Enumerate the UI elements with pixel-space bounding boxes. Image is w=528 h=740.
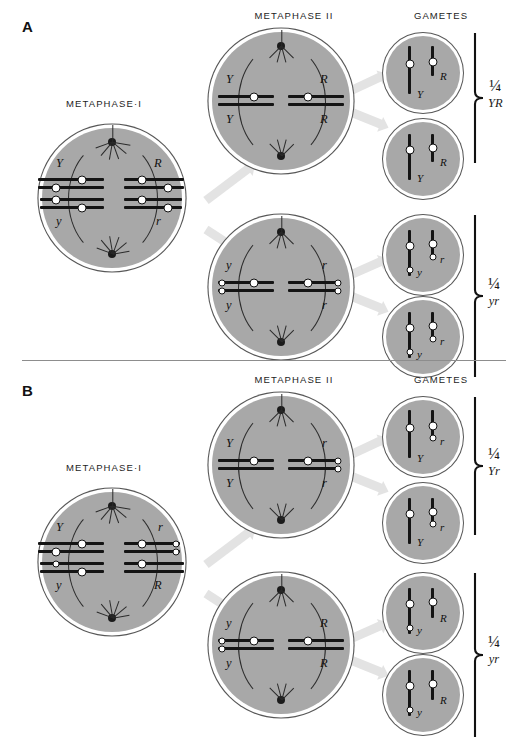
fraction-value-b1: ¼ [488,446,500,462]
allele-gamete-b4-right: R [440,694,447,706]
panel-b: B METAPHASE·I METAPHASE II GAMETES [0,364,528,740]
allele-m1-right-bottom-b: R [154,578,162,593]
allele-m1-left-top-b: Y [56,520,63,535]
allele-gamete-a3-left: y [417,266,422,278]
allele-gamete-b3-right: R [440,612,447,624]
allele-m1-right-bottom-a: r [156,214,161,229]
allele-m2c1-right-top-b: r [322,436,327,451]
fraction-value-a2: ¼ [488,276,500,292]
gamete-cell-b3: R y [386,576,460,650]
genotype-a2: yr [488,295,500,308]
metaphase-2-cell-2-a: y y r r [212,218,350,356]
genotype-b2: yr [488,653,500,666]
gamete-cell-b1: r Y [386,400,460,474]
heading-metaphase-1-a: METAPHASE·I [66,98,142,109]
panel-a: A METAPHASE·I METAPHASE II GAMETES [0,0,528,358]
allele-m2c2-right-bottom-a: r [322,298,327,313]
allele-m2c2-left-top-a: y [226,258,232,273]
arrow-m1-to-m2-top-a [203,164,252,204]
heading-metaphase-1-b: METAPHASE·I [66,462,142,473]
gamete-cell-a2: R Y [386,122,460,196]
allele-m2c2-left-top-b: y [226,616,232,631]
allele-m2c2-right-top-a: r [322,258,327,273]
allele-gamete-b2-right: r [440,521,444,533]
allele-m2c2-left-bottom-b: y [226,656,232,671]
allele-m2c2-left-bottom-a: y [226,298,232,313]
allele-m2c1-left-top-a: Y [226,72,233,87]
arrow-m2-to-gamete-3-a [345,257,383,281]
metaphase-1-cell-b: Y y r R [42,492,182,632]
allele-gamete-a1-left: Y [417,88,423,100]
gamete-cell-b2: r Y [386,486,460,560]
brace-gamete-group-2-b [472,572,485,738]
allele-m2c2-right-top-b: R [320,616,328,631]
allele-m2c1-right-bottom-b: r [322,476,327,491]
metaphase-1-cell-a: Y y R r [42,128,182,268]
heading-gametes-b: GAMETES [414,374,468,385]
arrow-m1-to-m2-top-b [203,528,252,568]
allele-m1-right-top-b: r [158,520,163,535]
allele-m2c1-right-bottom-a: R [320,112,328,127]
panel-letter-b: B [22,382,33,399]
brace-gamete-group-1-a [472,32,485,164]
genotype-a1: YR [488,97,503,110]
fraction-gamete-group-1-a: ¼ YR [488,78,503,110]
allele-gamete-a1-right: R [440,70,447,82]
fraction-gamete-group-2-a: ¼ yr [488,276,500,308]
gamete-cell-a3: r y [386,218,460,292]
fraction-gamete-group-1-b: ¼ Yr [488,446,500,478]
arrow-m2-to-gamete-1-b [345,436,383,460]
gamete-cell-b4: R y [386,658,460,732]
arrow-m2-to-gamete-2-b [345,470,384,493]
heading-metaphase-2-b: METAPHASE II [254,374,333,385]
fraction-value-a1: ¼ [488,78,503,94]
allele-m2c1-left-top-b: Y [226,436,233,451]
fraction-value-b2: ¼ [488,634,500,650]
allele-m1-left-bottom-a: y [56,214,62,229]
metaphase-2-cell-2-b: y y R R [212,576,350,714]
arrow-m2-to-gamete-1-a [345,72,383,96]
allele-gamete-b2-left: Y [417,536,423,548]
allele-m1-left-top-a: Y [56,156,63,171]
genotype-b1: Yr [488,465,500,478]
panel-letter-a: A [22,18,33,35]
gamete-cell-a4: r y [386,300,460,374]
metaphase-2-cell-1-b: Y Y r r [212,396,350,534]
metaphase-2-cell-1-a: Y Y R R [212,32,350,170]
gamete-cell-a1: R Y [386,36,460,110]
allele-gamete-a4-left: y [417,348,422,360]
heading-gametes-a: GAMETES [414,10,468,21]
heading-metaphase-2-a: METAPHASE II [254,10,333,21]
allele-gamete-b3-left: y [417,624,422,636]
allele-m2c2-right-bottom-b: R [320,656,328,671]
panel-divider [22,360,506,361]
allele-gamete-a3-right: r [440,253,444,265]
allele-gamete-b1-right: r [440,435,444,447]
allele-m1-right-top-a: R [154,156,162,171]
brace-gamete-group-1-b [472,396,485,536]
arrow-m2-to-gamete-4-b [345,654,384,677]
arrow-m2-to-gamete-4-a [345,290,384,313]
allele-m2c1-left-bottom-b: Y [226,476,233,491]
allele-m1-left-bottom-b: y [56,578,62,593]
allele-m2c1-right-top-a: R [320,72,328,87]
arrow-m2-to-gamete-3-b [345,621,383,645]
allele-gamete-b1-left: Y [417,452,423,464]
allele-gamete-a4-right: r [440,335,444,347]
allele-gamete-b4-left: y [417,706,422,718]
brace-gamete-group-2-a [472,214,485,378]
allele-gamete-a2-right: R [440,156,447,168]
arrow-m2-to-gamete-2-a [345,106,384,129]
allele-gamete-a2-left: Y [417,172,423,184]
fraction-gamete-group-2-b: ¼ yr [488,634,500,666]
allele-m2c1-left-bottom-a: Y [226,112,233,127]
